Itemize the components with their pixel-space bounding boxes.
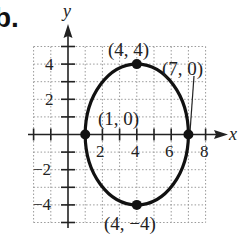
y-tick-label-2: 2 [45, 90, 54, 109]
x-tick-label-6: 6 [165, 142, 174, 161]
x-axis-label: x [228, 124, 237, 144]
point-1-0 [80, 130, 90, 140]
point-label-7-0: (7, 0) [162, 58, 203, 80]
y-axis-label: y [61, 1, 71, 21]
y-tick-label-neg2: −2 [33, 160, 51, 179]
point-7-0 [183, 130, 193, 140]
point-label-4-4: (4, 4) [108, 39, 149, 61]
part-label: b. [0, 2, 19, 33]
y-tick-label-4: 4 [45, 55, 54, 74]
ellipse-graph: b. [0, 0, 245, 238]
y-tick-label-neg4: −4 [33, 195, 52, 214]
point-4-neg4 [132, 200, 142, 210]
y-axis-arrow-icon [64, 24, 73, 38]
point-label-1-0: (1, 0) [98, 108, 139, 130]
x-tick-label-2: 2 [96, 142, 105, 161]
x-axis-arrow-icon [214, 130, 228, 139]
leader-line-7-0 [190, 76, 194, 132]
x-tick-label-4: 4 [131, 142, 140, 161]
x-tick-label-8: 8 [200, 142, 209, 161]
point-label-4-neg4: (4, −4) [104, 213, 156, 235]
point-4-4 [132, 59, 142, 69]
